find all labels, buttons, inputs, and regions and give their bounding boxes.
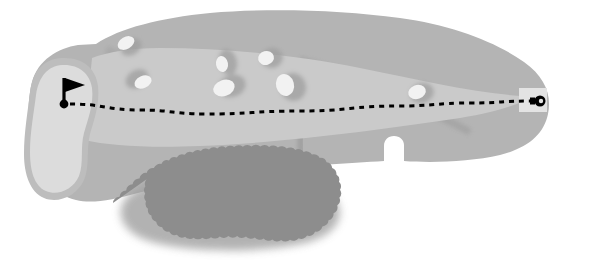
tee-inner-dot: [539, 99, 543, 103]
hole-map-svg: Golf hole schematic Top-down golf hole d…: [0, 0, 589, 273]
golf-hole-diagram: Golf hole schematic Top-down golf hole d…: [0, 0, 589, 273]
tee-dash-cap: [530, 98, 535, 105]
flag-base-dot: [60, 100, 69, 109]
